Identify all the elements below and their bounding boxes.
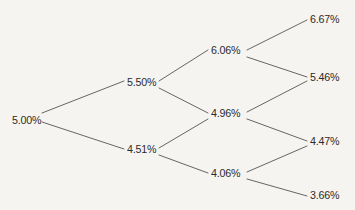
node-label-root: 5.00% xyxy=(12,114,41,127)
node-label-down-down: 4.06% xyxy=(211,167,240,180)
tree-edge xyxy=(247,81,307,112)
node-label-up: 5.50% xyxy=(127,76,156,89)
node-label-leaf-upper-mid: 5.46% xyxy=(310,71,339,84)
tree-edge xyxy=(159,50,208,81)
node-label-leaf-highest: 6.67% xyxy=(310,13,339,26)
tree-edge xyxy=(159,88,208,113)
tree-edge xyxy=(42,122,124,149)
tree-edge xyxy=(247,119,307,141)
node-label-up-down: 4.96% xyxy=(211,107,240,120)
node-label-leaf-lower-mid: 4.47% xyxy=(310,135,339,148)
node-label-leaf-lowest: 3.66% xyxy=(310,189,339,202)
tree-edge xyxy=(247,179,307,196)
tree-edge xyxy=(159,155,208,173)
tree-edge xyxy=(159,119,208,148)
tree-edges-layer xyxy=(0,0,355,210)
tree-edge xyxy=(247,20,307,50)
tree-edge xyxy=(42,81,124,113)
binomial-tree-diagram: 5.00% 5.50% 4.51% 6.06% 4.96% 4.06% 6.67… xyxy=(0,0,355,210)
node-label-up-up: 6.06% xyxy=(211,44,240,57)
tree-edge xyxy=(247,146,307,172)
node-label-down: 4.51% xyxy=(127,143,156,156)
tree-edge xyxy=(247,57,307,77)
edge-group xyxy=(42,20,307,196)
